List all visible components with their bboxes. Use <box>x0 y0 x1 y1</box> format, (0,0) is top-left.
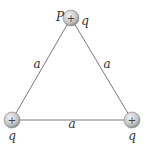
side-label-bottom: a <box>68 117 75 131</box>
side-label-left: a <box>33 57 40 71</box>
charge-bottom-left: + q <box>4 112 20 143</box>
plus-sign: + <box>67 13 75 24</box>
charge-top: + P q <box>55 10 89 28</box>
edge-right <box>71 18 132 120</box>
plus-sign: + <box>8 115 16 126</box>
triangle-charge-diagram: + P q + q + q a a a <box>0 0 147 146</box>
point-label-p: P <box>55 10 65 24</box>
charge-label-top: q <box>81 14 89 28</box>
edge-left <box>12 18 71 120</box>
plus-sign: + <box>128 115 136 126</box>
charge-label-bottom-right: q <box>128 129 136 143</box>
side-label-right: a <box>103 57 110 71</box>
charge-bottom-right: + q <box>124 112 140 143</box>
charge-label-bottom-left: q <box>8 129 16 143</box>
